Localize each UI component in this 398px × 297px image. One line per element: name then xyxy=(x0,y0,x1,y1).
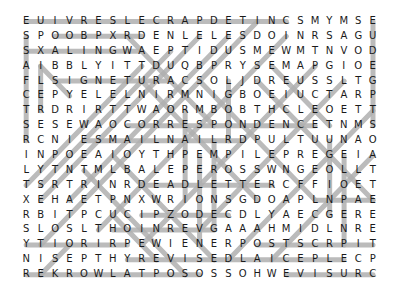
letter-cell[interactable]: L xyxy=(351,163,365,178)
letter-cell[interactable]: I xyxy=(33,59,47,74)
letter-cell[interactable]: R xyxy=(221,59,235,74)
letter-cell[interactable]: S xyxy=(250,163,264,178)
letter-cell[interactable]: E xyxy=(264,148,278,163)
letter-cell[interactable]: M xyxy=(308,14,322,29)
letter-cell[interactable]: G xyxy=(207,222,221,237)
letter-cell[interactable]: L xyxy=(279,133,293,148)
letter-cell[interactable]: E xyxy=(192,163,206,178)
letter-cell[interactable]: C xyxy=(279,14,293,29)
letter-cell[interactable]: B xyxy=(120,163,134,178)
letter-cell[interactable]: R xyxy=(19,133,33,148)
letter-cell[interactable]: L xyxy=(120,88,134,103)
letter-cell[interactable]: I xyxy=(106,59,120,74)
letter-cell[interactable]: Y xyxy=(322,14,336,29)
letter-cell[interactable]: O xyxy=(366,133,380,148)
letter-cell[interactable]: A xyxy=(337,88,351,103)
letter-cell[interactable]: O xyxy=(351,59,365,74)
letter-cell[interactable]: E xyxy=(149,178,163,193)
letter-cell[interactable]: N xyxy=(279,163,293,178)
letter-cell[interactable]: R xyxy=(221,237,235,252)
letter-cell[interactable]: M xyxy=(351,118,365,133)
letter-cell[interactable]: M xyxy=(91,163,105,178)
letter-cell[interactable]: I xyxy=(135,133,149,148)
letter-cell[interactable]: R xyxy=(264,74,278,89)
letter-cell[interactable]: T xyxy=(293,133,307,148)
letter-cell[interactable]: S xyxy=(19,29,33,44)
letter-cell[interactable]: P xyxy=(149,267,163,282)
letter-cell[interactable]: B xyxy=(192,59,206,74)
letter-cell[interactable]: P xyxy=(106,193,120,208)
letter-cell[interactable]: A xyxy=(178,133,192,148)
letter-cell[interactable]: P xyxy=(33,29,47,44)
letter-cell[interactable]: E xyxy=(279,267,293,282)
letter-cell[interactable]: P xyxy=(308,252,322,267)
letter-cell[interactable]: N xyxy=(91,44,105,59)
letter-cell[interactable]: P xyxy=(207,59,221,74)
letter-cell[interactable]: E xyxy=(293,208,307,223)
letter-cell[interactable]: R xyxy=(221,133,235,148)
letter-cell[interactable]: C xyxy=(120,208,134,223)
letter-cell[interactable]: E xyxy=(366,14,380,29)
letter-cell[interactable]: T xyxy=(48,163,62,178)
letter-cell[interactable]: L xyxy=(236,252,250,267)
letter-cell[interactable]: O xyxy=(351,44,365,59)
letter-cell[interactable]: T xyxy=(77,163,91,178)
letter-cell[interactable]: E xyxy=(308,118,322,133)
letter-cell[interactable]: E xyxy=(33,267,47,282)
letter-cell[interactable]: D xyxy=(149,59,163,74)
letter-cell[interactable]: P xyxy=(236,237,250,252)
letter-cell[interactable]: T xyxy=(19,103,33,118)
letter-cell[interactable]: T xyxy=(308,44,322,59)
letter-cell[interactable]: L xyxy=(106,163,120,178)
letter-cell[interactable]: O xyxy=(77,267,91,282)
letter-cell[interactable]: E xyxy=(308,103,322,118)
letter-cell[interactable]: E xyxy=(33,118,47,133)
letter-cell[interactable]: A xyxy=(250,222,264,237)
letter-cell[interactable]: T xyxy=(322,118,336,133)
letter-cell[interactable]: P xyxy=(221,148,235,163)
letter-cell[interactable]: G xyxy=(293,163,307,178)
letter-cell[interactable]: C xyxy=(279,252,293,267)
letter-cell[interactable]: E xyxy=(33,88,47,103)
letter-cell[interactable]: O xyxy=(221,103,235,118)
letter-cell[interactable]: L xyxy=(207,133,221,148)
letter-cell[interactable]: O xyxy=(163,267,177,282)
letter-cell[interactable]: I xyxy=(351,237,365,252)
letter-cell[interactable]: H xyxy=(106,222,120,237)
letter-cell[interactable]: E xyxy=(279,74,293,89)
letter-cell[interactable]: G xyxy=(322,59,336,74)
letter-cell[interactable]: R xyxy=(120,178,134,193)
letter-cell[interactable]: U xyxy=(293,88,307,103)
letter-cell[interactable]: N xyxy=(279,118,293,133)
letter-cell[interactable]: I xyxy=(33,252,47,267)
letter-cell[interactable]: U xyxy=(293,74,307,89)
letter-cell[interactable]: R xyxy=(149,118,163,133)
letter-cell[interactable]: O xyxy=(264,29,278,44)
letter-cell[interactable]: I xyxy=(236,148,250,163)
letter-cell[interactable]: T xyxy=(178,44,192,59)
letter-cell[interactable]: O xyxy=(322,103,336,118)
letter-cell[interactable]: S xyxy=(236,163,250,178)
letter-cell[interactable]: N xyxy=(120,193,134,208)
letter-cell[interactable]: O xyxy=(192,267,206,282)
letter-cell[interactable]: U xyxy=(308,133,322,148)
letter-cell[interactable]: A xyxy=(149,103,163,118)
letter-cell[interactable]: L xyxy=(33,222,47,237)
letter-cell[interactable]: P xyxy=(337,237,351,252)
letter-cell[interactable]: R xyxy=(293,148,307,163)
letter-cell[interactable]: A xyxy=(135,44,149,59)
letter-cell[interactable]: R xyxy=(149,74,163,89)
letter-cell[interactable]: R xyxy=(135,252,149,267)
letter-cell[interactable]: S xyxy=(293,237,307,252)
letter-cell[interactable]: C xyxy=(178,74,192,89)
letter-cell[interactable]: M xyxy=(106,133,120,148)
letter-cell[interactable]: I xyxy=(106,148,120,163)
letter-cell[interactable]: L xyxy=(106,267,120,282)
letter-cell[interactable]: E xyxy=(62,118,76,133)
letter-cell[interactable]: G xyxy=(322,148,336,163)
letter-cell[interactable]: P xyxy=(178,148,192,163)
letter-cell[interactable]: E xyxy=(366,208,380,223)
letter-cell[interactable]: A xyxy=(19,59,33,74)
letter-cell[interactable]: U xyxy=(106,208,120,223)
letter-cell[interactable]: T xyxy=(149,148,163,163)
